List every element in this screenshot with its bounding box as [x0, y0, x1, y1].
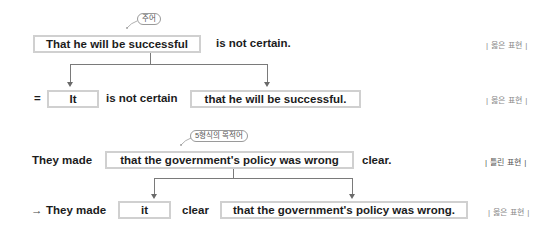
judgement-label-incorrect: | 틀린 표현 | — [485, 156, 527, 167]
rewrite-arrow-icon: → — [31, 202, 43, 219]
complement-text: clear — [182, 202, 209, 219]
connector-right-drop — [267, 64, 268, 83]
arrow-down-icon — [67, 82, 73, 87]
connector-left-drop — [70, 64, 71, 83]
complement-text: clear. — [362, 152, 391, 169]
connector-horizontal — [154, 178, 352, 179]
callout-subject: 주어 — [137, 13, 161, 25]
lead-text: They made — [46, 202, 106, 219]
dummy-subject-box: It — [47, 90, 99, 108]
dummy-object-box: it — [118, 201, 171, 219]
arrow-down-icon — [151, 194, 157, 199]
judgement-label-correct: | 옳은 표현 | — [488, 206, 530, 217]
arrow-down-icon — [264, 82, 270, 87]
object-clause-box: that the government's policy was wrong — [105, 151, 354, 169]
arrow-down-icon — [349, 194, 355, 199]
subject-clause-box: That he will be successful — [33, 35, 201, 53]
equals-sign: = — [34, 90, 41, 107]
connector-right-drop — [352, 178, 353, 195]
lead-text: They made — [32, 152, 92, 169]
judgement-label-correct: | 옳은 표현 | — [486, 39, 528, 50]
moved-clause-box: that the government's policy was wrong. — [220, 201, 468, 219]
callout-object: 5형식의 목적어 — [190, 130, 248, 142]
connector-vertical — [150, 53, 151, 64]
connector-horizontal — [70, 64, 267, 65]
predicate-text: is not certain — [106, 90, 178, 107]
connector-left-drop — [154, 178, 155, 195]
moved-clause-box: that he will be successful. — [190, 90, 361, 108]
judgement-label-correct: | 옳은 표현 | — [486, 94, 528, 105]
predicate-text: is not certain. — [216, 35, 291, 52]
